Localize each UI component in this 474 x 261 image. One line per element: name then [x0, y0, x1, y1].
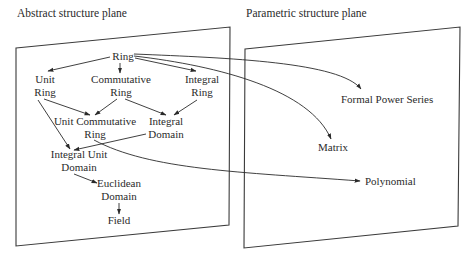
edge-ring-to-formal-power-series: [134, 54, 361, 89]
node-matrix-line1: Matrix: [318, 141, 348, 153]
node-commutative-ring: Commutative Ring: [91, 73, 151, 98]
node-polynomial-line1: Polynomial: [365, 175, 416, 187]
edge-integral-unit-domain-to-euclidean-domain: [74, 174, 97, 183]
node-commutative-ring-line2: Ring: [110, 86, 132, 98]
node-unit-ring-line2: Ring: [34, 86, 56, 98]
node-euclidean-domain-line1: Euclidean: [97, 177, 141, 189]
abstract-plane-title: Abstract structure plane: [17, 7, 127, 20]
node-integral-domain-line2: Domain: [148, 128, 184, 140]
node-integral-unit-domain-line2: Domain: [61, 161, 97, 173]
node-integral-ring-line1: Integral: [185, 73, 219, 85]
node-euclidean-domain-line2: Domain: [101, 190, 137, 202]
node-integral-ring: Integral Ring: [185, 73, 219, 98]
node-formal-power-series: Formal Power Series: [341, 93, 433, 105]
node-euclidean-domain: Euclidean Domain: [97, 177, 141, 202]
node-unit-commutative-ring-line2: Ring: [84, 128, 106, 140]
node-field-line1: Field: [108, 214, 131, 226]
node-integral-unit-domain: Integral Unit Domain: [51, 148, 108, 173]
diagram-canvas: Abstract structure plane Parametric stru…: [0, 0, 474, 261]
node-unit-ring-line1: Unit: [35, 73, 55, 85]
parametric-plane-title: Parametric structure plane: [246, 7, 367, 20]
node-formal-power-series-line1: Formal Power Series: [341, 93, 433, 105]
node-unit-ring: Unit Ring: [34, 73, 56, 98]
node-integral-ring-line2: Ring: [191, 86, 213, 98]
edge-integral-ring-to-integral-domain: [174, 100, 197, 115]
edge-unit-ring-to-unit-commutative-ring: [44, 99, 90, 115]
node-ring-line1: Ring: [112, 50, 134, 62]
node-unit-commutative-ring: Unit Commutative Ring: [54, 115, 136, 140]
node-commutative-ring-line1: Commutative: [91, 73, 151, 85]
node-integral-domain-line1: Integral: [149, 115, 183, 127]
parametric-structure-plane: [244, 27, 460, 248]
node-ring: Ring: [112, 50, 134, 62]
node-unit-commutative-ring-line1: Unit Commutative: [54, 115, 136, 127]
node-integral-unit-domain-line1: Integral Unit: [51, 148, 108, 160]
edge-commutative-ring-to-unit-commutative-ring: [95, 99, 117, 115]
edge-commutative-ring-to-integral-domain: [125, 99, 166, 115]
edge-ring-to-unit-ring: [48, 57, 110, 71]
node-field: Field: [108, 214, 131, 226]
node-matrix: Matrix: [318, 141, 348, 153]
node-polynomial: Polynomial: [365, 175, 416, 187]
node-integral-domain: Integral Domain: [148, 115, 184, 140]
